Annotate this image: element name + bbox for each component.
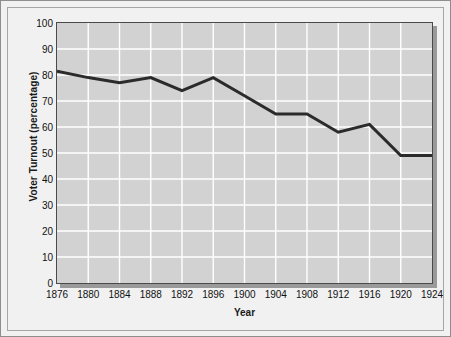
y-tick-label: 60 [23,122,53,133]
plot-area [56,22,433,284]
y-axis-tick-labels: 0102030405060708090100 [23,19,53,291]
y-tick-label: 10 [23,252,53,263]
y-tick-label: 90 [23,44,53,55]
y-tick-label: 20 [23,226,53,237]
y-tick-label: 80 [23,70,53,81]
chart-figure: Voter Turnout (percentage) 0102030405060… [0,0,451,337]
y-tick-label: 50 [23,148,53,159]
y-tick-label: 40 [23,174,53,185]
x-axis-tick-labels: 1876188018841888189218961900190419081912… [1,289,451,307]
chart-canvas [57,23,432,283]
y-tick-label: 70 [23,96,53,107]
y-tick-label: 30 [23,200,53,211]
y-tick-label: 0 [23,278,53,289]
y-tick-label: 100 [23,18,53,29]
x-tick-label: 1924 [412,289,451,300]
x-axis-title: Year [56,307,433,318]
gridlines [57,23,432,283]
